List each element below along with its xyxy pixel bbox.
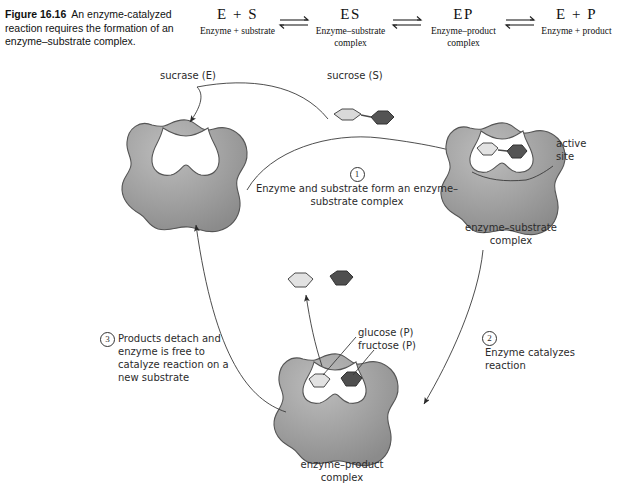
free-fructose-shape (330, 271, 353, 285)
sucrose-label: sucrose (S) (327, 70, 383, 83)
step-1-callout: 1 Enzyme and substrate form an enzyme–su… (246, 167, 468, 208)
step-1-text: Enzyme and substrate form an enzyme–subs… (246, 182, 468, 208)
free-glucose-shape (288, 273, 313, 287)
enzyme-product-complex-shape (274, 354, 398, 466)
fructose-label: fructose (P) (358, 340, 416, 353)
glucose-label: glucose (P) (358, 327, 413, 340)
step-2-text: Enzyme catalyzes reaction (485, 346, 612, 372)
enzyme-product-complex-label: enzyme–product complex (267, 459, 417, 484)
product-release-arrow (306, 295, 322, 366)
active-site-label: active site (556, 138, 586, 163)
step-1-number: 1 (350, 167, 365, 182)
step-2-callout: 2Enzyme catalyzes reaction (482, 331, 612, 372)
sucrase-curve (197, 83, 328, 119)
released-products (288, 271, 353, 287)
fructose-unit-shape (371, 111, 394, 124)
free-sucrose-molecule (334, 109, 394, 124)
step-3-callout: 3Products detach and enzyme is free to c… (100, 332, 250, 384)
step-2-arrow (424, 250, 483, 404)
step-3-text: Products detach and enzyme is free to ca… (118, 332, 246, 384)
enzyme-cycle-diagram (0, 0, 619, 500)
glycosidic-bond (361, 115, 371, 117)
enzyme-substrate-complex-label: enzyme–substrate complex (443, 222, 579, 247)
sucrase-label: sucrase (E) (160, 70, 216, 83)
free-enzyme-shape (122, 120, 247, 232)
glucose-unit-shape (334, 109, 361, 120)
bound-glycosidic-bond (498, 150, 507, 151)
sucrase-leader-arrow (190, 87, 201, 122)
step-2-number: 2 (482, 331, 497, 346)
step-3-number: 3 (100, 332, 115, 347)
